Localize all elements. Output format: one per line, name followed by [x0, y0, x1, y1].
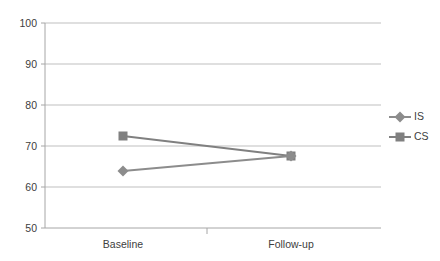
- y-axis-ticks: [41, 23, 45, 228]
- legend-square-icon: [396, 133, 405, 142]
- data-point-cs-baseline: [119, 132, 128, 141]
- line-chart: 100 90 80 70 60 50 Baseline Follow-up IS: [0, 0, 440, 261]
- legend-diamond-icon: [395, 112, 406, 123]
- legend-label-cs: CS: [414, 130, 429, 142]
- y-tick-label-50: 50: [25, 222, 37, 234]
- plot-area: [45, 23, 381, 228]
- y-tick-label-90: 90: [25, 58, 37, 70]
- chart-canvas: 100 90 80 70 60 50 Baseline Follow-up IS: [0, 0, 440, 261]
- legend-label-is: IS: [414, 110, 424, 122]
- x-tick-label-baseline: Baseline: [103, 238, 143, 250]
- y-tick-label-60: 60: [25, 181, 37, 193]
- x-tick-label-followup: Follow-up: [268, 238, 314, 250]
- legend-item-cs[interactable]: CS: [389, 130, 429, 142]
- y-tick-label-70: 70: [25, 140, 37, 152]
- y-tick-label-80: 80: [25, 99, 37, 111]
- y-tick-label-100: 100: [19, 17, 37, 29]
- legend-item-is[interactable]: IS: [389, 110, 424, 123]
- legend: IS CS: [389, 110, 429, 142]
